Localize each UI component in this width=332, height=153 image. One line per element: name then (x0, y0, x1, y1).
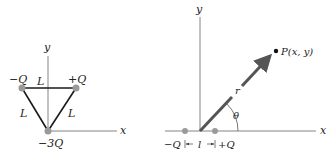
charge-label-minus-3q: −3Q (38, 137, 63, 150)
charge-label-minus-q: −Q (9, 73, 27, 86)
theta-label: θ (233, 110, 239, 121)
x-axis-label: x (120, 124, 127, 137)
r-vector-label: r (235, 85, 241, 96)
separation-label: l (198, 139, 201, 150)
charge-label-plus-q: +Q (218, 139, 235, 150)
x-axis-label: x (320, 124, 327, 137)
y-axis-label: y (195, 3, 203, 16)
side-label-right: L (67, 107, 75, 120)
y-axis-label: y (43, 41, 51, 54)
point-p (274, 49, 278, 53)
side-label-top: L (36, 75, 44, 88)
figure: y x −Q +Q −3Q L L L y x r P(x, y) θ (0, 0, 332, 153)
charge-plus-q (212, 128, 218, 134)
right-diagram: y x r P(x, y) θ l −Q +Q (164, 3, 327, 150)
charge-minus-q (182, 128, 188, 134)
r-vector (200, 97, 232, 131)
charge-label-plus-q: +Q (68, 73, 86, 86)
charge-minus-3q (45, 128, 52, 135)
r-vector-head (242, 56, 270, 86)
side-label-left: L (19, 107, 27, 120)
point-p-label: P(x, y) (280, 46, 313, 57)
charge-label-minus-q: −Q (164, 139, 181, 150)
left-diagram: y x −Q +Q −3Q L L L (9, 41, 127, 150)
